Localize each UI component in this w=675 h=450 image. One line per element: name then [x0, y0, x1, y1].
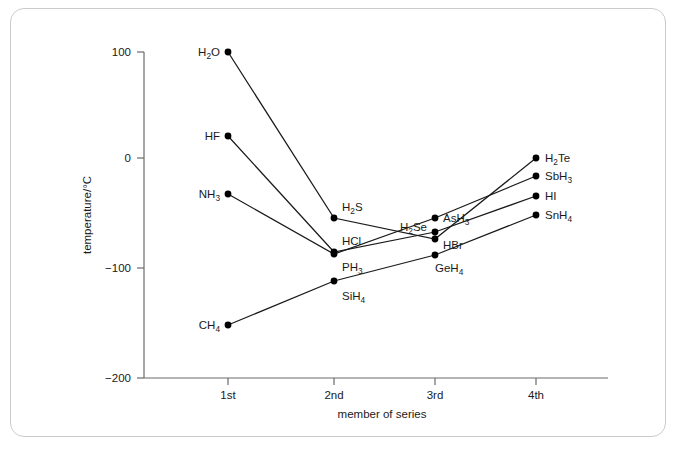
data-point-hf [225, 133, 232, 140]
label-ph3: PH3 [342, 261, 363, 276]
data-point-labels: H2O HF NH3 CH4 H2S HCl PH3 SiH4 H2Se AsH… [198, 46, 572, 334]
x-axis-ticks: 1st 2nd 3rd 4th [220, 378, 544, 401]
label-snh4-sub: 4 [567, 214, 572, 224]
y-tick-label-m200: −200 [105, 372, 131, 384]
label-hbr: HBr [443, 239, 463, 251]
data-point-h2se [432, 236, 439, 243]
label-h2te-tail: Te [558, 152, 570, 164]
series-lines [228, 52, 536, 325]
data-point-nh3 [225, 191, 232, 198]
label-h2te: H2Te [545, 152, 570, 167]
label-geh4-base: GeH [435, 262, 459, 274]
data-point-snh4 [533, 212, 540, 219]
label-snh4: SnH4 [545, 209, 572, 224]
x-tick-label-2nd: 2nd [324, 389, 343, 401]
y-tick-label-0: 0 [125, 152, 131, 164]
x-tick-label-1st: 1st [220, 389, 236, 401]
label-geh4-sub: 4 [459, 267, 464, 277]
label-hcl: HCl [342, 235, 361, 247]
label-snh4-base: SnH [545, 209, 567, 221]
x-tick-label-3rd: 3rd [427, 389, 444, 401]
data-point-ph3 [331, 251, 338, 258]
svg-text:temperature/°C: temperature/°C [81, 176, 93, 254]
label-sih4-base: SiH [342, 290, 361, 302]
y-axis-ticks: 100 0 −100 −200 [105, 46, 144, 384]
label-nh3: NH3 [199, 188, 221, 203]
label-ch4-base: CH [199, 319, 216, 331]
label-sbh3-sub: 3 [567, 175, 572, 185]
label-ph3-sub: 3 [358, 266, 363, 276]
x-axis-title: member of series [338, 408, 427, 420]
label-h2s: H2S [342, 201, 363, 216]
label-ash3-base: AsH [443, 212, 465, 224]
label-nh3-base: NH [199, 188, 216, 200]
data-point-sih4 [331, 278, 338, 285]
y-tick-label-m100: −100 [105, 262, 131, 274]
data-point-hi [533, 193, 540, 200]
label-sih4-sub: 4 [361, 295, 366, 305]
label-h2s-tail: S [355, 201, 363, 213]
label-h2se-base: H [400, 221, 408, 233]
label-ch4-sub: 4 [215, 324, 220, 334]
data-point-sbh3 [533, 173, 540, 180]
data-point-markers [225, 49, 540, 329]
data-point-ch4 [225, 322, 232, 329]
label-h2s-base: H [342, 201, 350, 213]
label-ch4: CH4 [199, 319, 221, 334]
label-sbh3: SbH3 [545, 170, 572, 185]
data-point-hbr [432, 229, 439, 236]
series-line-group17 [228, 136, 536, 252]
label-h2se-tail: Se [413, 221, 427, 233]
label-h2o: H2O [198, 46, 220, 61]
data-point-h2te [533, 155, 540, 162]
label-hi: HI [545, 190, 557, 202]
data-point-h2s [331, 215, 338, 222]
label-sbh3-base: SbH [545, 170, 567, 182]
y-axis-title-main: temperature/ [81, 188, 93, 254]
label-nh3-sub: 3 [215, 193, 220, 203]
hydride-boiling-point-chart: 100 0 −100 −200 1st 2nd 3rd 4th member o… [11, 9, 667, 438]
label-ash3-sub: 3 [465, 217, 470, 227]
series-line-group14 [228, 215, 536, 325]
series-line-group16 [228, 52, 536, 239]
label-hf: HF [205, 130, 220, 142]
y-axis-title: temperature/°C [81, 176, 93, 254]
y-tick-label-100: 100 [112, 46, 131, 58]
label-h2o-base: H [198, 46, 206, 58]
y-axis-title-unit: °C [81, 176, 93, 189]
data-point-h2o [225, 49, 232, 56]
data-point-ash3 [432, 215, 439, 222]
data-point-geh4 [432, 252, 439, 259]
label-sih4: SiH4 [342, 290, 366, 305]
label-h2te-base: H [545, 152, 553, 164]
figure-frame: 100 0 −100 −200 1st 2nd 3rd 4th member o… [10, 8, 666, 437]
label-h2o-tail: O [211, 46, 220, 58]
label-ph3-base: PH [342, 261, 358, 273]
x-tick-label-4th: 4th [528, 389, 544, 401]
label-geh4: GeH4 [435, 262, 464, 277]
